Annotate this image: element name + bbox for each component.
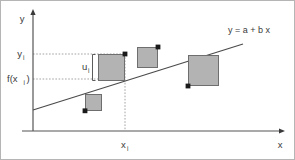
x-tick-label-xi-subscript: i (127, 145, 128, 152)
y-tick-label-yi-subscript: i (23, 54, 24, 61)
figure-canvas: y x y i f(x i ) x i u i y = a + b x (0, 0, 295, 160)
y-tick-label-fxi-subscript: i (24, 79, 25, 86)
residual-label-ui-base: u (82, 61, 87, 72)
data-point-3 (156, 45, 161, 50)
data-point-1 (83, 108, 88, 113)
y-tick-label-yi-base: y (17, 48, 22, 59)
data-point-2 (123, 52, 128, 57)
regression-residual-squares-figure: y x y i f(x i ) x i u i y = a + b x (0, 0, 295, 160)
y-axis-label: y (20, 13, 25, 24)
x-axis-label: x (278, 139, 283, 150)
residual-square-4 (189, 56, 219, 86)
regression-equation-label: y = a + b x (228, 25, 271, 35)
residual-square-2 (99, 55, 125, 81)
y-tick-label-fxi-base: f(x (7, 73, 18, 84)
data-point-4 (186, 84, 191, 89)
residual-square-3 (138, 48, 158, 68)
x-tick-label-xi-base: x (121, 139, 126, 150)
y-tick-label-fxi-tail: ) (27, 73, 30, 84)
residual-square-1 (86, 95, 102, 111)
residual-label-ui-subscript: i (88, 67, 89, 74)
